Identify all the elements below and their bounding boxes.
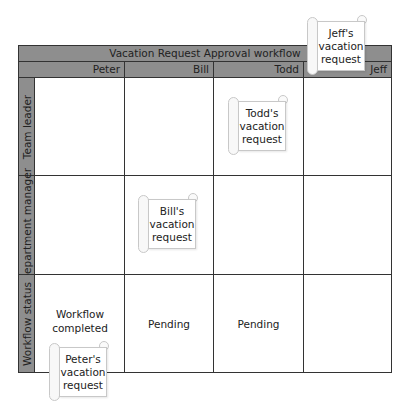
cell-status-bill: Pending (125, 275, 214, 372)
scroll-label: Bill's vacation request (148, 199, 196, 249)
row-header-workflow-status: Workflow status (19, 275, 35, 372)
row-label: Department manager (21, 168, 33, 282)
status-bill: Pending (125, 317, 213, 331)
bill-request-scroll: Bill's vacation request (138, 193, 198, 255)
cell-team-leader-bill (125, 78, 214, 176)
scroll-label: Peter's vacation request (59, 347, 107, 397)
row-header-team-leader: Team leader (19, 78, 35, 176)
cell-team-leader-jeff (304, 78, 391, 176)
row-header-department-manager: Department manager (19, 176, 35, 275)
workflow-table: Vacation Request Approval workflow Peter… (18, 45, 392, 373)
scroll-label: Jeff's vacation request (317, 21, 365, 71)
status-todd: Pending (214, 317, 303, 331)
column-header-bill: Bill (125, 62, 214, 78)
cell-dept-manager-peter (35, 176, 125, 275)
jeff-request-scroll: Jeff's vacation request (307, 15, 367, 77)
cell-dept-manager-jeff (304, 176, 391, 275)
row-label: Workflow status (21, 282, 33, 366)
status-peter: Workflow completed (45, 307, 115, 335)
peter-request-scroll: Peter's vacation request (49, 341, 109, 403)
cell-status-jeff (304, 275, 391, 372)
row-label: Team leader (21, 94, 33, 158)
column-header-peter: Peter (19, 62, 125, 78)
scroll-label: Todd's vacation request (238, 101, 286, 151)
cell-status-todd: Pending (214, 275, 304, 372)
cell-team-leader-peter (35, 78, 125, 176)
column-header-todd: Todd (214, 62, 304, 78)
cell-dept-manager-todd (214, 176, 304, 275)
todd-request-scroll: Todd's vacation request (228, 95, 288, 157)
